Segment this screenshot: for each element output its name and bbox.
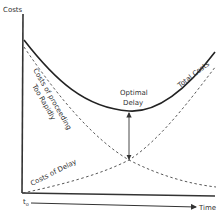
delay-costs-label: Costs of Delay [29, 158, 78, 188]
time-arrow [31, 203, 196, 207]
chart-canvas: Costs Time to Total Costs Costs of proce… [0, 0, 224, 216]
x-axis-label: Time [198, 204, 216, 212]
optimal-delay-label-line1: Optimal [120, 89, 148, 97]
origin-label: to [23, 198, 29, 207]
optimal-delay-label-line2: Delay [123, 99, 143, 107]
y-axis-label: Costs [3, 6, 23, 14]
total-costs-label: Total Costs [176, 60, 212, 90]
y-axis [22, 14, 23, 193]
x-axis [22, 193, 215, 196]
